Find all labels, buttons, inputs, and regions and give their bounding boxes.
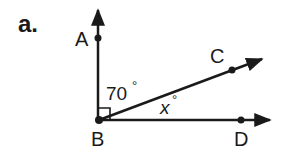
point-A bbox=[95, 35, 102, 42]
point-B bbox=[95, 116, 103, 124]
angle-CBD-degree: ° bbox=[172, 92, 177, 107]
angle-CBD-value: x bbox=[159, 97, 171, 118]
part-label: a. bbox=[18, 10, 38, 37]
label-D: D bbox=[234, 128, 248, 150]
angle-ABC-degree: ° bbox=[132, 78, 137, 93]
label-C: C bbox=[210, 45, 224, 67]
geometry-diagram: a. A B C D 70 ° x ° bbox=[0, 0, 282, 163]
label-A: A bbox=[75, 28, 89, 50]
label-B: B bbox=[91, 128, 104, 150]
angle-ABC-value: 70 bbox=[106, 83, 127, 104]
point-C bbox=[229, 67, 236, 74]
point-D bbox=[238, 117, 245, 124]
